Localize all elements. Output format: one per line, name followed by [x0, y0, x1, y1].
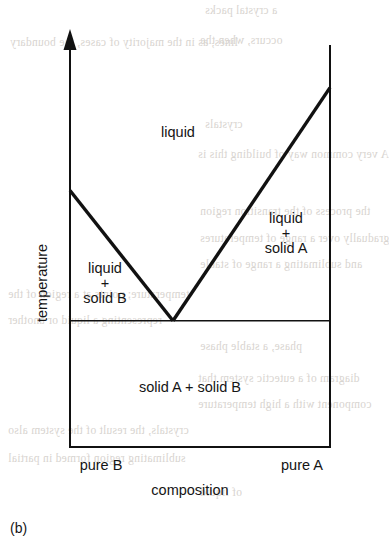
figure-caption: (b) [10, 520, 27, 536]
region-label-liquid-plus-solid-a: liquid+solid A [265, 211, 308, 257]
liquidus-line-a-rich [173, 88, 330, 321]
x-axis-label: composition [151, 482, 228, 498]
y-axis-arrow-icon [64, 29, 77, 50]
region-label-solid-a-plus-solid-b: solid A + solid B [139, 379, 241, 395]
y-axis-label: temperature [34, 244, 50, 322]
x-tick-label-pure-b: pure B [80, 457, 123, 473]
region-label-liquid-plus-solid-b: liquid+solid B [83, 261, 127, 307]
region-label-liquid: liquid [161, 124, 195, 140]
x-tick-label-pure-a: pure A [281, 457, 323, 473]
